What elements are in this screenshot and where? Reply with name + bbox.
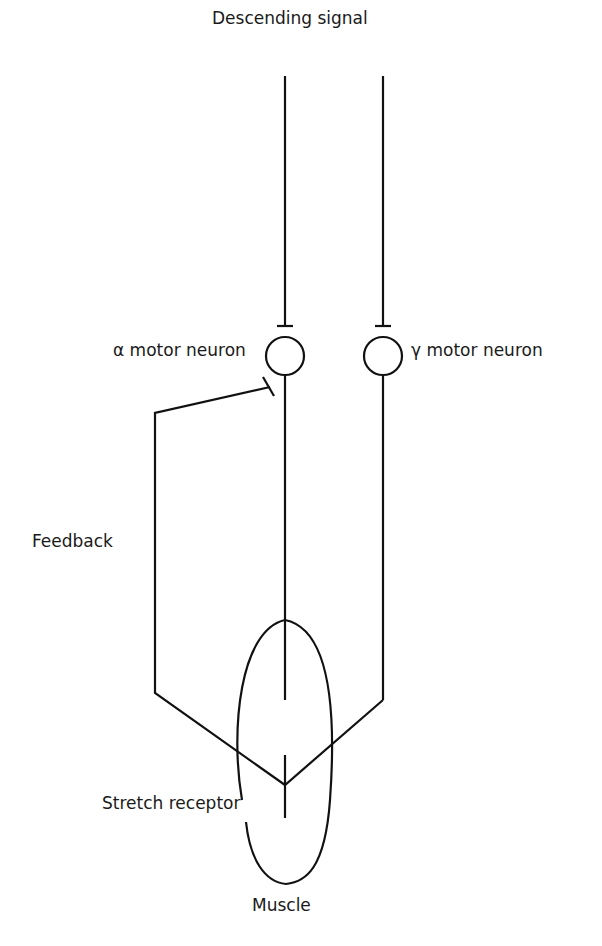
descending-signal-label: Descending signal — [212, 10, 368, 27]
feedback-path — [155, 387, 383, 785]
feedback-inhibitory-terminal — [263, 377, 274, 396]
alpha-motor-neuron-icon — [266, 337, 304, 375]
gamma-motor-neuron-icon — [364, 337, 402, 375]
diagram-canvas — [0, 0, 602, 946]
alpha-motor-neuron-label: α motor neuron — [113, 342, 246, 359]
feedback-label: Feedback — [32, 533, 113, 550]
muscle-label: Muscle — [252, 897, 311, 914]
stretch-reflex-diagram: Descending signal α motor neuron γ motor… — [0, 0, 602, 946]
gamma-motor-neuron-label: γ motor neuron — [411, 342, 543, 359]
stretch-receptor-label: Stretch receptor — [102, 795, 240, 812]
